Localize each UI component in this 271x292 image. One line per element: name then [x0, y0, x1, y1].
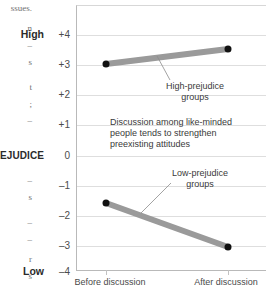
high-prejudice-line: [106, 49, 228, 64]
ytick-label-m2: –2: [48, 210, 70, 221]
low-prejudice-annotation: Low-prejudice groups: [150, 168, 250, 190]
ytick-label-0: 0: [48, 150, 70, 161]
xtick-label-before: Before discussion: [74, 277, 145, 287]
caption-note-annotation: Discussion among like-minded people tend…: [110, 117, 255, 150]
data-point-high-after: [225, 46, 232, 53]
low-prejudice-line: [106, 203, 228, 247]
ytick-label-4: +4: [48, 29, 70, 40]
ytick-label-m3: –3: [48, 240, 70, 251]
ytick-label-m1: –1: [48, 180, 70, 191]
ytick-label-3: +3: [48, 59, 70, 70]
data-point-low-before: [103, 200, 110, 207]
ytick-label-m4: –4: [48, 266, 70, 277]
high-prejudice-annotation: High-prejudice groups: [140, 81, 250, 103]
ytick-label-2: +2: [48, 89, 70, 100]
xtick-label-after: After discussion: [194, 277, 258, 287]
axis-extreme-low-label: Low: [0, 265, 44, 277]
data-point-low-after: [225, 244, 232, 251]
ytick-label-1: +1: [48, 119, 70, 130]
data-point-high-before: [103, 61, 110, 68]
y-axis-title: PREJUDICE: [0, 150, 44, 161]
axis-extreme-high-label: High: [0, 28, 44, 40]
line-chart-figure: +4 +3 +2 +1 0 –1 –2 –3 –4 High Low PREJU…: [0, 0, 271, 292]
